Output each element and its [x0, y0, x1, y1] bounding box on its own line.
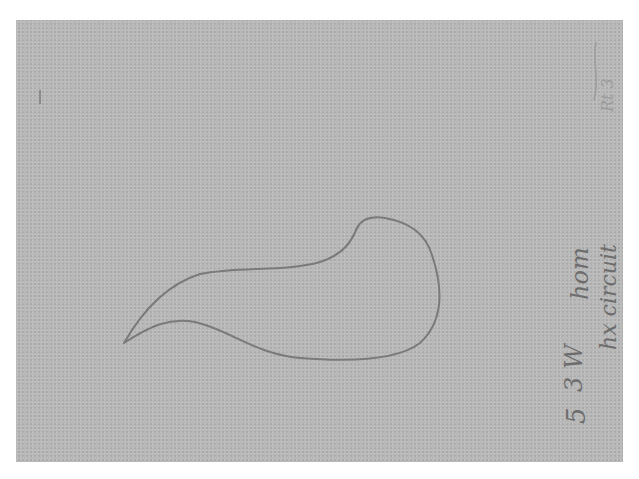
- top-right-mark: [594, 42, 596, 100]
- handwritten-outer-label: hx circuit: [596, 244, 621, 350]
- comma-shape-outline: [124, 217, 439, 359]
- handwritten-lower-mark: 3 W: [560, 344, 588, 392]
- handwritten-inner-label: hom: [566, 247, 594, 300]
- handwritten-top-mark: Rt 3: [598, 78, 617, 112]
- hand-drawn-outline: [0, 0, 639, 479]
- handwritten-bottom-mark: 5: [561, 407, 591, 424]
